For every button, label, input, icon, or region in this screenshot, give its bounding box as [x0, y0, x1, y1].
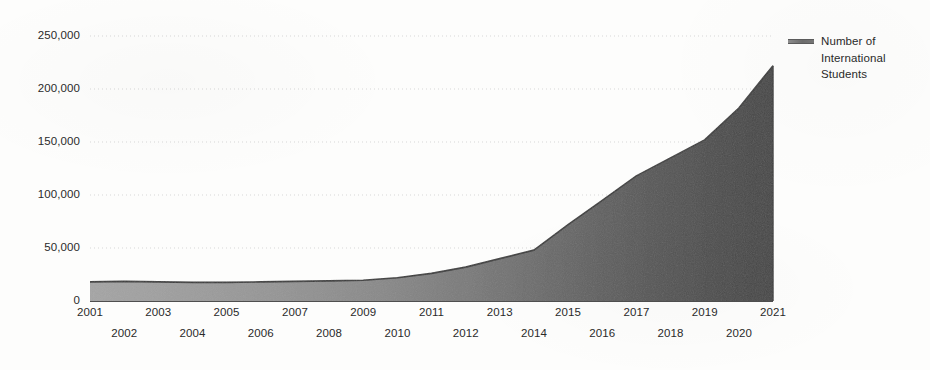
legend-entry-label: Number of International Students [821, 33, 886, 83]
x-tick-2006: 2006 [239, 327, 283, 339]
x-tick-2009: 2009 [341, 306, 385, 318]
x-tick-2010: 2010 [375, 327, 419, 339]
x-tick-2002: 2002 [102, 327, 146, 339]
x-tick-2017: 2017 [614, 306, 658, 318]
x-tick-2015: 2015 [546, 306, 590, 318]
chart-page: 250,000 200,000 150,000 100,000 50,000 0… [0, 0, 930, 370]
y-tick-0: 0 [0, 294, 80, 306]
x-tick-2012: 2012 [444, 327, 488, 339]
legend-label-line-3: Students [821, 66, 886, 83]
y-tick-250000: 250,000 [0, 29, 80, 41]
x-tick-2004: 2004 [170, 327, 214, 339]
x-tick-2014: 2014 [512, 327, 556, 339]
y-tick-50000: 50,000 [0, 241, 80, 253]
x-tick-2007: 2007 [273, 306, 317, 318]
line-swatch-icon [788, 39, 814, 44]
chart-legend: Number of International Students [788, 33, 926, 83]
x-tick-2008: 2008 [307, 327, 351, 339]
y-tick-150000: 150,000 [0, 135, 80, 147]
legend-label-line-2: International [821, 50, 886, 67]
x-tick-2018: 2018 [649, 327, 693, 339]
x-tick-2011: 2011 [410, 306, 454, 318]
x-tick-2019: 2019 [683, 306, 727, 318]
x-tick-2005: 2005 [205, 306, 249, 318]
x-tick-2021: 2021 [751, 306, 795, 318]
x-tick-2003: 2003 [136, 306, 180, 318]
x-tick-2001: 2001 [68, 306, 112, 318]
x-tick-2020: 2020 [717, 327, 761, 339]
y-tick-200000: 200,000 [0, 82, 80, 94]
area-series-path [90, 66, 773, 301]
x-tick-2013: 2013 [478, 306, 522, 318]
y-tick-100000: 100,000 [0, 188, 80, 200]
x-tick-2016: 2016 [580, 327, 624, 339]
legend-label-line-1: Number of [821, 33, 886, 50]
